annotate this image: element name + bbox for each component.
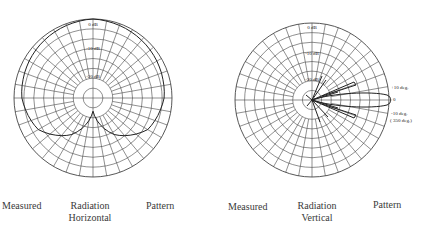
left-polar-grid	[14, 19, 172, 177]
right-caption-radiation: Radiation Vertical	[282, 200, 352, 224]
right-label-plus10deg: +10 deg.	[391, 85, 409, 90]
left-caption-radiation-text: Radiation	[55, 200, 125, 212]
right-radiation-pattern	[306, 76, 391, 122]
right-label-350deg: ( 350 deg.)	[390, 118, 412, 123]
right-label-10db: -10 dB	[305, 51, 319, 56]
right-label-20db: -20 dB	[305, 77, 319, 82]
right-caption-radiation-text: Radiation	[282, 200, 352, 212]
left-label-10db: -10 dB	[86, 46, 100, 51]
left-label-0db: 0 dB	[88, 22, 98, 27]
right-label-minus10deg: -10 deg.	[391, 111, 407, 116]
left-caption-radiation: Radiation Horizontal	[55, 200, 125, 224]
right-caption-pattern: Pattern	[373, 199, 401, 210]
right-caption-measured: Measured	[228, 201, 267, 212]
right-caption-vertical: Vertical	[282, 212, 352, 224]
right-label-0db: 0 dB	[307, 25, 317, 30]
left-caption-pattern: Pattern	[146, 200, 174, 211]
right-label-0deg: 0	[393, 97, 396, 102]
polar-plots: 0 dB -10 dB -20 dB 0 dB -10 dB -20 dB +1…	[0, 0, 425, 230]
left-caption-measured: Measured	[2, 200, 41, 211]
left-caption-horizontal: Horizontal	[55, 212, 125, 224]
left-label-20db: -20 dB	[86, 74, 100, 79]
